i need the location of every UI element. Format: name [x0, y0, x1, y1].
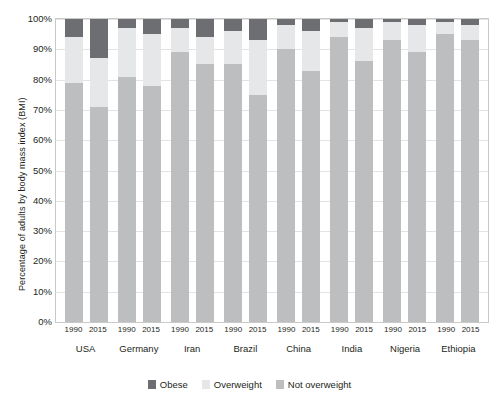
- y-axis-tick-label: 90%: [18, 45, 52, 55]
- country-group: [378, 19, 431, 322]
- y-axis-tick-label: 30%: [18, 226, 52, 236]
- x-axis-country-label: USA: [59, 343, 112, 354]
- x-axis-country-label: India: [325, 343, 378, 354]
- bar-segment-not-overweight: [461, 40, 479, 322]
- bar-segment-overweight: [118, 28, 136, 76]
- bar-segment-not-overweight: [330, 37, 348, 322]
- stacked-bar[interactable]: [408, 19, 426, 322]
- y-axis-tick-label: 70%: [18, 105, 52, 115]
- bar-segment-obese: [90, 19, 108, 58]
- year-label-group: 19902015: [59, 325, 112, 335]
- bar-segment-overweight: [196, 37, 214, 64]
- year-label-group: 19902015: [112, 325, 165, 335]
- country-group: [60, 19, 113, 322]
- bar-segment-overweight: [171, 28, 189, 52]
- x-axis-year-label: 1990: [434, 325, 458, 335]
- x-axis-year-label: 2015: [139, 325, 163, 335]
- x-axis-country-label: Nigeria: [379, 343, 432, 354]
- bar-segment-not-overweight: [65, 83, 83, 322]
- stacked-bar[interactable]: [302, 19, 320, 322]
- legend-item[interactable]: Obese: [148, 380, 188, 390]
- y-axis-tick-label: 50%: [18, 166, 52, 176]
- x-axis-year-label: 2015: [352, 325, 376, 335]
- country-group: [431, 19, 484, 322]
- bar-segment-obese: [355, 19, 373, 28]
- y-axis-tick-label: 40%: [18, 196, 52, 206]
- bar-segment-obese: [118, 19, 136, 28]
- legend-swatch-icon: [276, 380, 284, 389]
- x-axis: 1990201519902015199020151990201519902015…: [55, 325, 489, 371]
- bar-segment-not-overweight: [196, 64, 214, 322]
- bar-segment-overweight: [143, 34, 161, 86]
- stacked-bar[interactable]: [383, 19, 401, 322]
- chart-legend: ObeseOverweightNot overweight: [0, 380, 499, 390]
- plot-inner: [56, 19, 488, 322]
- bar-segment-overweight: [355, 28, 373, 61]
- stacked-bar[interactable]: [436, 19, 454, 322]
- x-axis-year-label: 2015: [86, 325, 110, 335]
- legend-label: Obese: [160, 380, 188, 390]
- x-axis-year-label: 2015: [405, 325, 429, 335]
- x-axis-country-label: China: [272, 343, 325, 354]
- country-group: [166, 19, 219, 322]
- x-axis-country-label: Germany: [112, 343, 165, 354]
- legend-swatch-icon: [148, 380, 156, 389]
- stacked-bar[interactable]: [330, 19, 348, 322]
- plot-area: [55, 18, 489, 323]
- y-axis-tick-label: 0%: [18, 317, 52, 327]
- bar-segment-overweight: [330, 22, 348, 37]
- year-label-group: 19902015: [272, 325, 325, 335]
- y-axis-tick-label: 10%: [18, 287, 52, 297]
- bar-segment-not-overweight: [408, 52, 426, 322]
- bar-segment-obese: [224, 19, 242, 31]
- x-axis-year-labels: 1990201519902015199020151990201519902015…: [55, 325, 489, 335]
- bar-segment-not-overweight: [90, 107, 108, 322]
- bar-segment-not-overweight: [224, 64, 242, 322]
- x-axis-country-label: Brazil: [219, 343, 272, 354]
- x-axis-year-label: 2015: [245, 325, 269, 335]
- bar-segment-overweight: [249, 40, 267, 95]
- year-label-group: 19902015: [166, 325, 219, 335]
- x-axis-year-label: 1990: [327, 325, 351, 335]
- x-axis-year-label: 1990: [381, 325, 405, 335]
- stacked-bar[interactable]: [224, 19, 242, 322]
- bar-segment-obese: [196, 19, 214, 37]
- legend-item[interactable]: Not overweight: [276, 380, 351, 390]
- x-axis-country-label: Ethiopia: [432, 343, 485, 354]
- bar-segment-overweight: [461, 25, 479, 40]
- bar-segment-overweight: [302, 31, 320, 70]
- bar-segment-overweight: [277, 25, 295, 49]
- bar-segment-not-overweight: [118, 77, 136, 322]
- legend-swatch-icon: [202, 380, 210, 389]
- legend-label: Overweight: [214, 380, 262, 390]
- stacked-bar[interactable]: [90, 19, 108, 322]
- bar-segment-obese: [249, 19, 267, 40]
- y-axis-tick-label: 60%: [18, 135, 52, 145]
- legend-item[interactable]: Overweight: [202, 380, 262, 390]
- stacked-bar[interactable]: [143, 19, 161, 322]
- country-group: [219, 19, 272, 322]
- bar-segment-not-overweight: [277, 49, 295, 322]
- stacked-bar[interactable]: [196, 19, 214, 322]
- country-group: [113, 19, 166, 322]
- stacked-bar[interactable]: [277, 19, 295, 322]
- stacked-bar[interactable]: [171, 19, 189, 322]
- bar-segment-overweight: [90, 58, 108, 106]
- bar-segment-obese: [171, 19, 189, 28]
- x-axis-year-label: 2015: [458, 325, 482, 335]
- bar-segment-not-overweight: [436, 34, 454, 322]
- stacked-bar[interactable]: [65, 19, 83, 322]
- stacked-bar[interactable]: [355, 19, 373, 322]
- bmi-stacked-bar-chart: Percentage of adults by body mass index …: [0, 0, 499, 407]
- x-axis-country-labels: USAGermanyIranBrazilChinaIndiaNigeriaEth…: [55, 343, 489, 354]
- x-axis-year-label: 1990: [221, 325, 245, 335]
- stacked-bar[interactable]: [118, 19, 136, 322]
- stacked-bar[interactable]: [461, 19, 479, 322]
- country-group: [272, 19, 325, 322]
- country-group: [325, 19, 378, 322]
- stacked-bar[interactable]: [249, 19, 267, 322]
- bar-segment-overweight: [65, 37, 83, 82]
- bar-segment-not-overweight: [302, 71, 320, 322]
- gridline: [56, 322, 488, 323]
- year-label-group: 19902015: [219, 325, 272, 335]
